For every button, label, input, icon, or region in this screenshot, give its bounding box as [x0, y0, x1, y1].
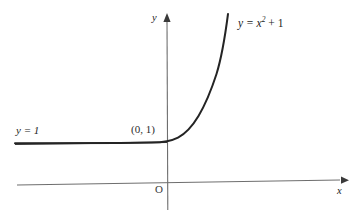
y-axis-group: [163, 13, 170, 210]
x-axis-group: [17, 177, 349, 186]
x-axis-line: [17, 180, 340, 185]
origin-label: O: [155, 184, 163, 195]
curve-equation-label: y = x2 + 1: [238, 18, 283, 30]
y-axis-label: y: [152, 13, 157, 24]
function-graph-figure: y = x2 + 1 y = 1 (0, 1) O y x: [0, 0, 351, 215]
graph-canvas: [0, 0, 351, 215]
y-axis-arrowhead: [163, 13, 170, 22]
curve-equation-suffix: + 1: [265, 17, 283, 29]
point-label-0-1: (0, 1): [131, 124, 155, 135]
curve-equation-prefix: y = x: [238, 17, 262, 29]
x-axis-label: x: [337, 186, 342, 197]
curve-y-equals-x-squared-plus-1: [15, 14, 228, 143]
x-axis-arrowhead: [341, 177, 349, 184]
y-axis-line: [167, 20, 168, 210]
asymptote-label: y = 1: [16, 125, 39, 136]
